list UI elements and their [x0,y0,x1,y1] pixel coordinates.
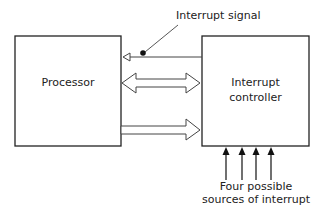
signal-dot [140,50,146,56]
processor-label: Processor [15,76,121,90]
sources-label-line1: Four possible [196,180,316,194]
controller-label-line1: Interrupt [202,76,309,90]
label-leader-line [145,25,178,52]
interrupt-source-arrows [223,147,275,180]
bidirectional-bus-arrow [122,73,200,93]
interrupt-signal-arrow [123,53,202,61]
controller-label-line2: controller [202,91,309,105]
unidirectional-bus-arrow [121,119,200,140]
processor-block [15,36,121,146]
sources-label-line2: sources of interrupt [196,193,316,207]
interrupt-signal-label: Interrupt signal [176,9,260,23]
